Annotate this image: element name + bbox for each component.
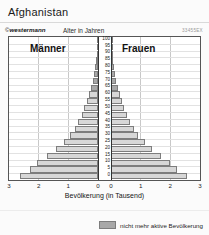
- age-tick-label: 100: [102, 36, 110, 41]
- age-tick-label: 75: [105, 70, 110, 75]
- legend-swatch-inactive: [99, 221, 116, 229]
- pyramid-bar: [111, 160, 170, 166]
- age-tick-label: 20: [105, 145, 110, 150]
- pyramid-bar: [111, 112, 127, 118]
- age-tick-label: 30: [105, 131, 110, 136]
- pyramid-bar: [84, 105, 98, 111]
- age-tick-label: 70: [105, 77, 110, 82]
- age-tick-label: 80: [105, 63, 110, 68]
- x-tick-label: 3: [7, 182, 10, 189]
- gridline-vertical: [38, 37, 39, 180]
- pyramid-bar: [78, 119, 98, 125]
- pyramid-bar: [111, 139, 145, 145]
- page-title: Afghanistan: [8, 6, 68, 18]
- age-tick-label: 55: [105, 97, 110, 102]
- gridline-vertical: [170, 37, 171, 180]
- pyramid-bar: [111, 132, 138, 138]
- age-tick-label: 50: [105, 104, 110, 109]
- pyramid-bar: [111, 119, 130, 125]
- publisher-logo: ©westermann: [5, 26, 46, 33]
- age-tick-label: 90: [105, 49, 110, 54]
- pyramid-bar: [47, 153, 98, 159]
- x-tick-label: 0: [96, 182, 99, 189]
- legend-label-inactive: nicht mehr aktive Bevölkerung: [120, 222, 203, 229]
- x-tick-label: 3: [198, 182, 201, 189]
- pyramid-bar: [64, 139, 98, 145]
- pyramid-bar: [111, 91, 120, 97]
- age-tick-label: 85: [105, 56, 110, 61]
- pyramid-bar: [111, 166, 177, 172]
- pyramid-bar: [70, 132, 98, 138]
- pyramid-bar: [111, 173, 187, 179]
- age-tick-label: 10: [105, 158, 110, 163]
- age-tick-label: 5: [107, 165, 110, 170]
- pyramid-bar: [30, 166, 98, 172]
- pyramid-bar: [37, 160, 98, 166]
- publisher-name: westermann: [9, 26, 45, 33]
- age-tick-label: 45: [105, 111, 110, 116]
- pyramid-bar: [75, 126, 98, 132]
- x-axis-label: Bevölkerung (in Tausend): [0, 192, 209, 199]
- age-tick-label: 65: [105, 83, 110, 88]
- y-axis-title: Alter in Jahren: [63, 27, 104, 34]
- pyramid-bar: [111, 85, 118, 91]
- pyramid-bar: [111, 78, 116, 84]
- title-divider: [0, 22, 209, 23]
- x-tick-label: 2: [37, 182, 40, 189]
- pyramid-bar: [111, 153, 161, 159]
- pyramid-bar: [82, 112, 98, 118]
- age-tick-label: 35: [105, 124, 110, 129]
- x-tick-label: 1: [139, 182, 142, 189]
- figure-code: 33455EX: [182, 28, 203, 33]
- pyramid-bar: [111, 98, 122, 104]
- pyramid-bar: [111, 146, 152, 152]
- pyramid-bar: [20, 173, 98, 179]
- x-tick-label: 0: [109, 182, 112, 189]
- age-tick-label: 25: [105, 138, 110, 143]
- age-tick-label: 60: [105, 90, 110, 95]
- pyramid-bar: [111, 105, 124, 111]
- age-axis: 0510152025303540455055606570758085909510…: [98, 37, 111, 180]
- pyramid-bar: [87, 98, 98, 104]
- legend: nicht mehr aktive Bevölkerung: [99, 221, 203, 229]
- legend-divider: [0, 210, 209, 211]
- chart-page: Afghanistan ©westermann Alter in Jahren …: [0, 0, 209, 235]
- panel-label-maenner: Männer: [30, 43, 66, 54]
- x-tick-label: 2: [169, 182, 172, 189]
- age-tick-label: 40: [105, 118, 110, 123]
- age-tick-label: 95: [105, 43, 110, 48]
- pyramid-bar: [111, 71, 115, 77]
- pyramid-bar: [56, 146, 98, 152]
- age-tick-label: 0: [107, 172, 110, 177]
- panel-label-frauen: Frauen: [122, 43, 155, 54]
- age-tick-label: 15: [105, 152, 110, 157]
- pyramid-bar: [111, 126, 134, 132]
- x-tick-label: 1: [67, 182, 70, 189]
